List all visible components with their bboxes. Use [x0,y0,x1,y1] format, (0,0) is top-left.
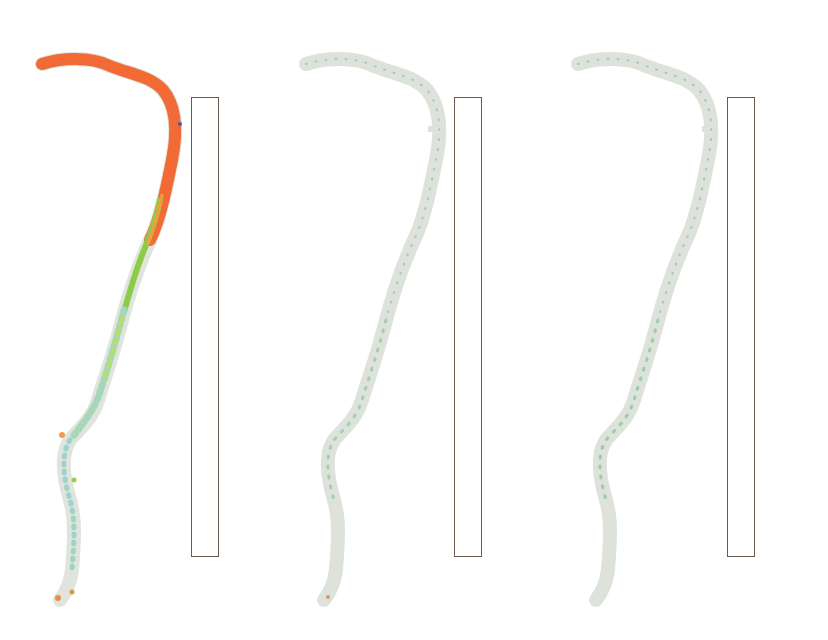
colorbar-hhsi [454,97,482,557]
panel-uhsi [0,0,276,640]
river-map-uhsi [0,0,276,640]
panel-csf [552,0,828,640]
river-map-csf [552,0,828,640]
colorbar-csf [727,97,755,557]
river-map-hhsi [276,0,552,640]
colorbar-uhsi [191,97,219,557]
panel-hhsi [276,0,552,640]
